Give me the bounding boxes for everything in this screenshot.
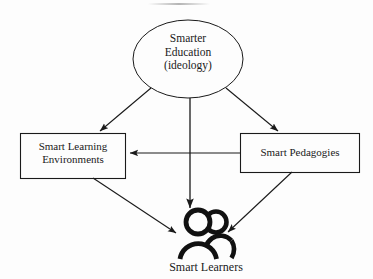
- environments-box: [21, 134, 126, 179]
- edge-pedagogies-to-learners: [228, 172, 292, 232]
- edge-environments-to-learners: [93, 178, 176, 233]
- edge-ideology-to-environments: [100, 88, 151, 131]
- diagram-canvas: Smarter Education (ideology) Smart Learn…: [0, 0, 373, 279]
- two-people-icon: [180, 210, 234, 259]
- pedagogies-box: [241, 134, 360, 173]
- edge-ideology-to-pedagogies: [226, 88, 278, 131]
- ideology-ellipse: [133, 20, 243, 98]
- diagram-graphics: [0, 0, 373, 279]
